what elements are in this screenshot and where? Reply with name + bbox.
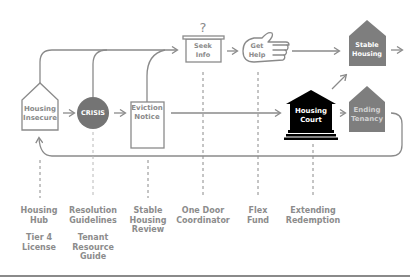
intervention-line: Extending [286, 206, 341, 216]
housing-court-line2: Court [295, 116, 327, 125]
stable-housing-line1: Stable [352, 41, 382, 50]
intervention-line: Coordinator [176, 216, 230, 226]
get-help-line2: Help [249, 51, 266, 60]
intervention-line: Guidelines [69, 216, 117, 226]
housing-insecure-line1: Housing [23, 105, 57, 114]
intervention-line: Review [130, 225, 167, 235]
intervention-line: Redemption [286, 216, 341, 226]
intervention-spacer [21, 225, 58, 233]
intervention-extending-redemption: Extending Redemption [286, 206, 341, 225]
intervention-resolution-guidelines: Resolution Guidelines Tenant Resource Gu… [69, 206, 117, 262]
intervention-leaders [40, 72, 313, 198]
stable-housing-line2: Housing [352, 50, 382, 59]
seek-info-line2: Info [194, 51, 212, 60]
eviction-notice-line1: Eviction [131, 104, 162, 113]
intervention-line: Resolution [69, 206, 117, 216]
intervention-line: Housing [130, 216, 167, 226]
intervention-line: Guide [69, 252, 117, 262]
stable-housing-label: Stable Housing [352, 41, 382, 59]
eviction-notice-label: Eviction Notice [131, 104, 162, 122]
bottom-divider [0, 275, 410, 277]
housing-court-label: Housing Court [295, 107, 327, 125]
question-mark-icon: ? [200, 20, 207, 35]
eviction-notice-line2: Notice [131, 113, 162, 122]
get-help-label: Get Help [249, 42, 266, 60]
intervention-line: Tier 4 [21, 233, 58, 243]
intervention-spacer [69, 225, 117, 233]
get-help-line1: Get [249, 42, 266, 51]
intervention-line: Flex [247, 206, 269, 216]
ending-tenancy-label: Ending Tenancy [351, 106, 383, 124]
ending-tenancy-line2: Tenancy [351, 115, 383, 124]
intervention-one-door-coordinator: One Door Coordinator [176, 206, 230, 225]
housing-insecure-line2: Insecure [23, 114, 57, 123]
connectors-to-seek-info [40, 50, 177, 102]
seek-info-label: Seek Info [194, 42, 212, 60]
intervention-line: Stable [130, 206, 167, 216]
crisis-label: CRISIS [81, 109, 105, 118]
intervention-stable-housing-review: Stable Housing Review [130, 206, 167, 235]
intervention-line: Tenant [69, 233, 117, 243]
intervention-flex-fund: Flex Fund [247, 206, 269, 225]
intervention-line: Resource [69, 243, 117, 253]
housing-court-line1: Housing [295, 107, 327, 116]
intervention-line: One Door [176, 206, 230, 216]
intervention-line: Housing [21, 206, 58, 216]
intervention-line: License [21, 243, 58, 253]
intervention-housing-hub: Housing Hub Tier 4 License [21, 206, 58, 252]
seek-info-line1: Seek [194, 42, 212, 51]
housing-insecure-label: Housing Insecure [23, 105, 57, 123]
intervention-line: Fund [247, 216, 269, 226]
housing-journey-diagram: ? Housing Insecure CRISIS Eviction Notic… [0, 0, 419, 278]
ending-tenancy-line1: Ending [351, 106, 383, 115]
intervention-line: Hub [21, 216, 58, 226]
